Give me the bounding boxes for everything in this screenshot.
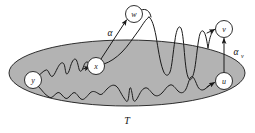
node-w-label: w: [131, 10, 137, 19]
region-label-T: T: [124, 115, 131, 126]
node-y[interactable]: y: [25, 72, 42, 89]
node-v-label: v: [222, 25, 226, 34]
region-T-ellipse: [9, 40, 245, 106]
edge-label-alpha-v-subscript: v: [241, 53, 244, 59]
node-y-label: y: [30, 76, 35, 85]
node-x[interactable]: x: [88, 58, 105, 75]
edge-label-alpha: α: [108, 28, 114, 38]
diagram-canvas: y x w v u α α v T: [0, 0, 255, 133]
node-u-label: u: [222, 77, 226, 86]
edge-label-alpha-v: α: [234, 47, 240, 57]
figure-root: y x w v u α α v T: [0, 0, 255, 133]
node-x-label: x: [93, 62, 98, 71]
edge-label-alpha-v-group: α v: [234, 47, 245, 59]
node-u[interactable]: u: [216, 73, 233, 90]
node-w[interactable]: w: [126, 6, 143, 23]
node-v[interactable]: v: [216, 21, 233, 38]
